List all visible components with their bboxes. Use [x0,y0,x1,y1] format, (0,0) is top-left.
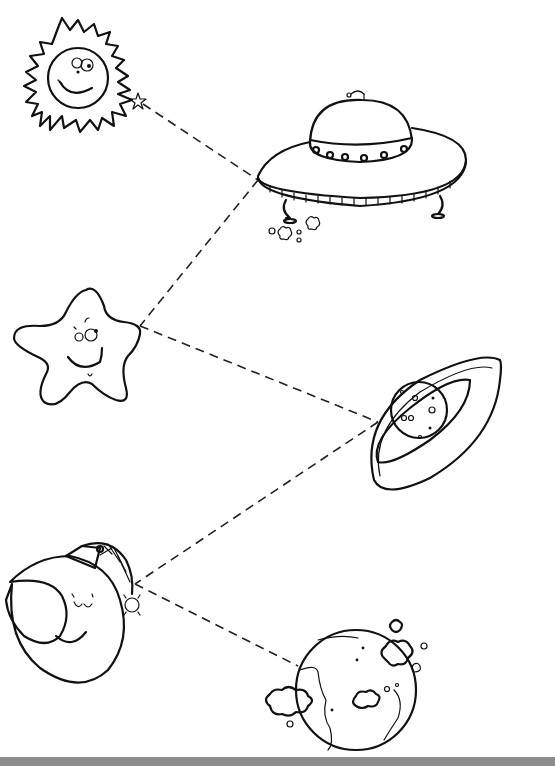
flying-saucer-icon [258,91,466,242]
trace-line-planet-moon[interactable] [135,422,378,584]
trace-line-sun-ufo[interactable] [143,104,258,180]
trace-lines[interactable] [135,104,378,666]
ringed-planet-icon [371,358,501,490]
start-star-icon [130,93,146,109]
sleeping-moon-icon [6,543,140,682]
trace-line-moon-earth[interactable] [135,584,298,666]
worksheet-canvas [0,0,555,766]
smiling-star-icon [14,289,140,405]
sun-icon [24,18,132,132]
earth-globe-icon [266,620,427,750]
footer-bar [0,757,555,766]
trace-line-ufo-star[interactable] [140,180,258,326]
trace-line-star-planet[interactable] [140,326,378,422]
